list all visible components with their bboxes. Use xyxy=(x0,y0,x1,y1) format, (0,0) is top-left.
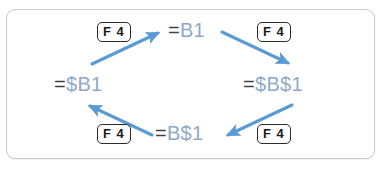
reference-text: B$1 xyxy=(167,122,204,144)
reference-label-right: =$B$1 xyxy=(243,73,303,96)
equals-sign: = xyxy=(168,19,180,41)
f4-key-top-left: F 4 xyxy=(97,22,131,42)
f4-key-bottom-right: F 4 xyxy=(257,124,291,144)
f4-reference-cycle-diagram: =B1 =$B$1 =B$1 =$B1 F 4 F 4 F 4 F 4 xyxy=(0,0,388,174)
reference-label-bottom: =B$1 xyxy=(155,122,203,145)
reference-label-left: =$B1 xyxy=(54,73,102,96)
reference-text: $B$1 xyxy=(255,73,303,95)
equals-sign: = xyxy=(54,73,66,95)
f4-key-bottom-left: F 4 xyxy=(97,124,131,144)
reference-label-top: =B1 xyxy=(168,19,205,42)
equals-sign: = xyxy=(243,73,255,95)
f4-key-top-right: F 4 xyxy=(257,22,291,42)
reference-text: $B1 xyxy=(66,73,103,95)
equals-sign: = xyxy=(155,122,167,144)
reference-text: B1 xyxy=(180,19,205,41)
